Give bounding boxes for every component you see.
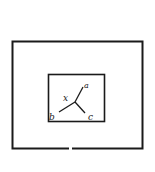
outer-bottom-gap <box>69 147 72 150</box>
branch-line-c <box>75 102 85 113</box>
diagram-canvas: x a c b <box>0 0 155 172</box>
label-b: b <box>49 112 55 122</box>
branch-line-a <box>75 87 83 102</box>
label-x: x <box>63 93 68 103</box>
label-c: c <box>88 112 93 122</box>
branch-line-b <box>59 102 75 112</box>
label-a: a <box>84 81 89 90</box>
outer-rectangle <box>13 42 143 149</box>
